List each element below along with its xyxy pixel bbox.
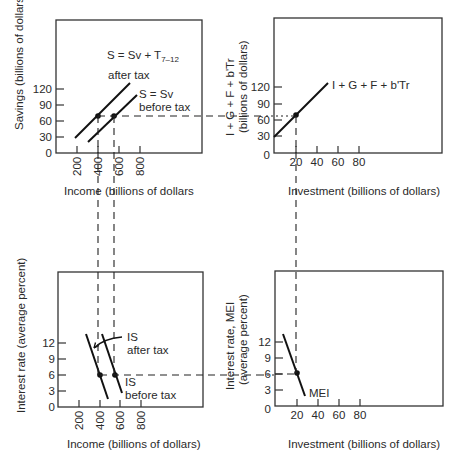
y-axis-label-line1: Interest rate, MEI	[224, 302, 236, 390]
x-tick-20: 20	[291, 409, 304, 421]
y-tick-90: 90	[39, 99, 52, 111]
mei-line	[283, 334, 305, 396]
y-tick-90: 90	[257, 98, 270, 110]
y-tick-6: 6	[265, 368, 271, 380]
y-tick-60: 60	[39, 115, 52, 127]
before-tax-curve-label: S = Sv	[139, 88, 173, 100]
y-tick-0: 0	[46, 147, 52, 159]
y-tick-9: 9	[265, 352, 271, 364]
x-tick-60: 60	[332, 156, 345, 168]
x-tick-40: 40	[311, 156, 324, 168]
x-tick-60: 60	[333, 409, 346, 421]
x-axis-label: Investment (billions of dollars)	[288, 438, 440, 450]
diagram-canvas: 0 30 60 90 120 200 400 600 800 Savings (…	[0, 0, 459, 465]
x-axis-label: Income (billions of dollars)	[67, 438, 201, 450]
injections-line	[274, 83, 328, 137]
x-tick-80: 80	[353, 156, 366, 168]
y-tick-0: 0	[265, 403, 271, 415]
y-tick-12: 12	[258, 336, 271, 348]
x-tick-600: 600	[114, 411, 126, 430]
y-tick-3: 3	[265, 384, 271, 396]
y-axis-label: Savings (billions of dollars)	[13, 0, 25, 130]
is-before-tax-label: IS	[125, 376, 136, 388]
equilibrium-point	[294, 370, 300, 376]
panel-savings-income: 0 30 60 90 120 200 400 600 800 Savings (…	[13, 0, 202, 197]
x-axis-label: Income (billions of dollars	[64, 185, 194, 197]
y-tick-120: 120	[33, 83, 52, 95]
y-tick-120: 120	[251, 81, 270, 93]
x-tick-400: 400	[94, 411, 106, 430]
panel-frame	[275, 271, 443, 406]
y-tick-30: 30	[257, 130, 270, 142]
panel-mei: 0 3 6 9 12 20 40 60 80 Interest rate, ME…	[224, 271, 443, 450]
y-axis-label-line2: (average percent)	[237, 294, 249, 385]
injections-curve-label: I + G + F + b'Tr	[332, 79, 410, 91]
y-axis-label: Interest rate (average percent)	[15, 258, 27, 413]
is-before-tax-line	[102, 334, 122, 393]
y-tick-0: 0	[49, 401, 55, 413]
panel-injections-investment: 0 30 60 90 120 20 40 60 80 I + G + F + b…	[224, 18, 442, 197]
y-tick-0: 0	[264, 149, 270, 161]
y-tick-6: 6	[49, 369, 55, 381]
y-tick-12: 12	[42, 337, 55, 349]
is-after-tax-label: IS	[127, 331, 138, 343]
is-before-tax-note: before tax	[125, 389, 176, 401]
panel-frame	[56, 20, 202, 153]
x-tick-80: 80	[354, 409, 367, 421]
is-after-tax-note: after tax	[127, 344, 169, 356]
y-axis-label-line2: (billions of dollars)	[237, 40, 249, 133]
panel-is-curve: 0 3 6 9 12 200 400 600 800 Interest rate…	[15, 258, 203, 450]
x-axis-label: Investment (billions of dollars)	[288, 185, 440, 197]
x-tick-600: 600	[113, 157, 125, 176]
after-tax-note: after tax	[108, 69, 150, 81]
x-tick-200: 200	[71, 157, 83, 176]
x-tick-800: 800	[135, 411, 147, 430]
before-tax-note: before tax	[139, 101, 190, 113]
y-tick-3: 3	[49, 385, 55, 397]
y-tick-30: 30	[39, 131, 52, 143]
mei-curve-label: MEI	[309, 387, 329, 399]
x-tick-800: 800	[134, 157, 146, 176]
x-tick-40: 40	[312, 409, 325, 421]
after-tax-curve-label: S = Sv + T7–12	[107, 49, 179, 64]
y-axis-label-line1: I + G + F + b'Tr	[224, 58, 236, 136]
four-quadrant-is-diagram: 0 30 60 90 120 200 400 600 800 Savings (…	[0, 0, 459, 465]
y-tick-9: 9	[49, 353, 55, 365]
x-tick-200: 200	[73, 411, 85, 430]
